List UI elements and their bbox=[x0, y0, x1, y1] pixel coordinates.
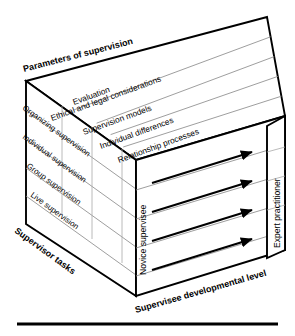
diagram-canvas: Parameters of supervision Evaluation Eth… bbox=[0, 0, 295, 336]
supervision-cube-diagram: Parameters of supervision Evaluation Eth… bbox=[0, 0, 295, 336]
label-novice-supervisee: Novice supervisee bbox=[138, 205, 148, 275]
label-expert-practitioner: Expert practitioner bbox=[272, 178, 282, 248]
